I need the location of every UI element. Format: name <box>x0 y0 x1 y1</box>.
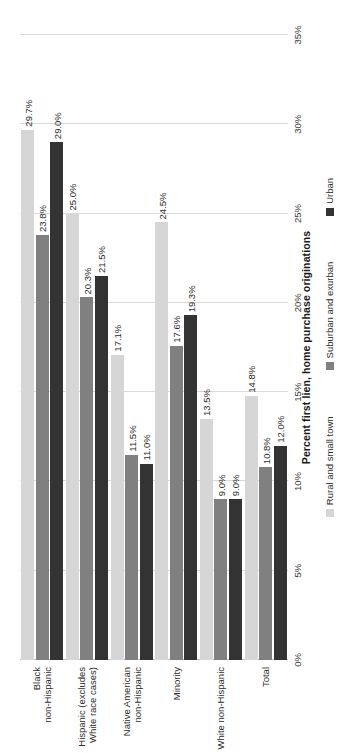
bar-group: Native American non-Hispanic17.1%11.5%11… <box>109 35 154 660</box>
bar-value-label: 20.3% <box>81 268 92 295</box>
legend-swatch-icon <box>326 362 334 370</box>
legend-swatch-icon <box>326 208 334 216</box>
bar: 21.5% <box>95 276 108 660</box>
bar-value-label: 29.0% <box>51 112 62 139</box>
bar-value-label: 21.5% <box>96 246 107 273</box>
category-label: Native American non-Hispanic <box>121 667 143 753</box>
bar-group: Black non-Hispanic29.7%23.8%29.0% <box>20 35 65 660</box>
bar: 9.0% <box>229 499 242 660</box>
bar: 11.0% <box>140 464 153 660</box>
bar-value-label: 9.0% <box>215 475 226 497</box>
category-label: Black non-Hispanic <box>31 667 53 753</box>
bar: 17.1% <box>111 355 124 660</box>
category-label: Total <box>260 667 271 753</box>
bar-value-label: 12.0% <box>275 416 286 443</box>
bar-value-label: 11.5% <box>126 425 137 451</box>
chart-legend: Rural and small townSuburban and exurban… <box>324 35 335 660</box>
bar: 17.6% <box>170 346 183 660</box>
plot-area: 0%5%10%15%20%25%30%35%Black non-Hispanic… <box>20 35 288 660</box>
category-label: White non-Hispanic <box>215 667 226 753</box>
bar: 29.0% <box>50 142 63 660</box>
bar-value-label: 25.0% <box>67 184 78 211</box>
legend-label: Urban <box>324 178 335 204</box>
bar-value-label: 13.5% <box>201 389 212 416</box>
bar: 14.8% <box>245 396 258 660</box>
bar-value-label: 14.8% <box>246 366 257 393</box>
bar: 9.0% <box>214 499 227 660</box>
bar-group: Total14.8%10.8%12.0% <box>243 35 288 660</box>
bar-group: White non-Hispanic13.5%9.0%9.0% <box>199 35 244 660</box>
category-label: Minority <box>171 667 182 753</box>
bar-value-label: 9.0% <box>230 475 241 497</box>
chart-canvas: 0%5%10%15%20%25%30%35%Black non-Hispanic… <box>0 0 350 753</box>
legend-item[interactable]: Suburban and exurban <box>324 262 335 371</box>
category-label: Hispanic (excludes White race cases) <box>76 667 98 753</box>
bar-value-label: 23.8% <box>37 205 48 232</box>
bar: 20.3% <box>80 298 93 661</box>
bar-group: Minority24.5%17.6%19.3% <box>154 35 199 660</box>
bar: 25.0% <box>66 214 79 660</box>
bar-value-label: 17.1% <box>112 325 123 352</box>
bar-value-label: 17.6% <box>171 316 182 343</box>
legend-label: Rural and small town <box>324 416 335 505</box>
bar: 24.5% <box>155 223 168 661</box>
bar: 13.5% <box>200 419 213 660</box>
bar-value-label: 29.7% <box>22 100 33 127</box>
bar: 23.8% <box>36 235 49 660</box>
bar: 11.5% <box>125 455 138 660</box>
legend-item[interactable]: Urban <box>324 178 335 216</box>
bar: 10.8% <box>259 467 272 660</box>
bar: 12.0% <box>274 446 287 660</box>
bar-value-label: 24.5% <box>156 193 167 220</box>
legend-item[interactable]: Rural and small town <box>324 416 335 517</box>
bar-value-label: 11.0% <box>141 434 152 460</box>
legend-label: Suburban and exurban <box>324 262 335 359</box>
x-axis-title: Percent first lien, home purchase origin… <box>300 35 312 660</box>
bar-group: Hispanic (excludes White race cases)25.0… <box>65 35 110 660</box>
bar-value-label: 10.8% <box>260 437 271 464</box>
bar-value-label: 19.3% <box>185 285 196 312</box>
bar: 29.7% <box>21 130 34 660</box>
legend-swatch-icon <box>326 509 334 517</box>
bar: 19.3% <box>184 315 197 660</box>
